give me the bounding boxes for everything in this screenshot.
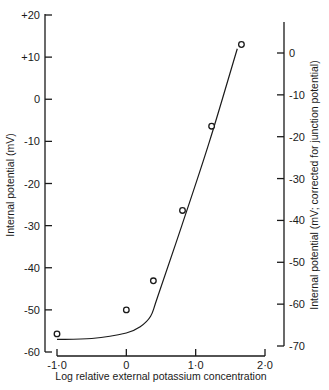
left-y-tick-label: 0 — [34, 93, 40, 105]
right-y-tick-label: -20 — [289, 131, 305, 143]
chart-svg: +20+100-10-20-30-40-50-60 0-10-20-30-40-… — [0, 0, 329, 390]
left-y-tick-label: -40 — [24, 262, 40, 274]
data-point-open-circle — [239, 42, 245, 48]
right-y-tick-label: -30 — [289, 173, 305, 185]
chart-figure: +20+100-10-20-30-40-50-60 0-10-20-30-40-… — [0, 0, 329, 390]
x-axis — [57, 349, 265, 356]
right-y-tick-label: -60 — [289, 298, 305, 310]
left-y-tick-label: +10 — [21, 51, 40, 63]
left-y-tick-label: +20 — [21, 9, 40, 21]
right-y-tick-label: -50 — [289, 256, 305, 268]
data-point-open-circle — [54, 331, 60, 337]
left-y-tick-label: -10 — [24, 135, 40, 147]
left-y-tick-label: -30 — [24, 220, 40, 232]
left-y-tick-label: -50 — [24, 304, 40, 316]
right-y-axis — [277, 22, 284, 346]
right-y-tick-label: -10 — [289, 89, 305, 101]
right-y-tick-label: -70 — [289, 340, 305, 352]
data-points — [54, 42, 244, 337]
data-point-open-circle — [124, 307, 130, 313]
left-y-axis — [45, 14, 52, 352]
left-y-tick-label: -20 — [24, 178, 40, 190]
fitted-curve-line — [57, 49, 237, 340]
left-y-tick-labels: +20+100-10-20-30-40-50-60 — [21, 9, 40, 358]
data-point-open-circle — [151, 278, 157, 284]
x-axis-label: Log relative external potassium concentr… — [55, 370, 266, 382]
data-point-open-circle — [180, 208, 186, 214]
right-y-tick-labels: 0-10-20-30-40-50-60-70 — [289, 47, 305, 352]
right-y-axis-label: Internal potential (mV; corrected for ju… — [308, 60, 320, 309]
left-y-axis-label: Internal potential (mV) — [4, 133, 16, 236]
left-y-tick-label: -60 — [24, 346, 40, 358]
data-point-open-circle — [209, 123, 215, 129]
right-y-tick-label: 0 — [289, 47, 295, 59]
right-y-tick-label: -40 — [289, 214, 305, 226]
